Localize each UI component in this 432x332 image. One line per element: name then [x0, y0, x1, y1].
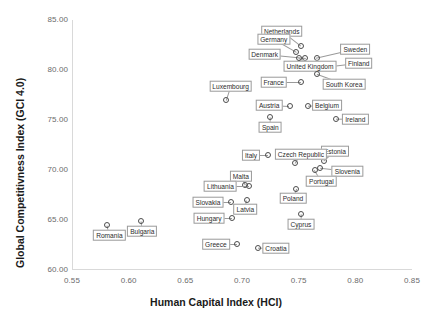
y-tick-label: 70.00 [30, 165, 68, 174]
data-point-marker[interactable] [229, 215, 235, 221]
x-tick-label: 0.60 [109, 276, 149, 285]
x-tick-label: 0.75 [279, 276, 319, 285]
point-label[interactable]: United Kingdom [284, 61, 337, 72]
point-label[interactable]: Romania [93, 230, 125, 241]
y-tick-label: 80.00 [30, 65, 68, 74]
data-point-marker[interactable] [305, 103, 311, 109]
data-point-marker[interactable] [246, 183, 252, 189]
x-tick-label: 0.80 [335, 276, 375, 285]
point-label[interactable]: Ireland [342, 114, 368, 125]
y-tick-label: 60.00 [30, 265, 68, 274]
point-label[interactable]: Slovenia [332, 166, 363, 177]
point-label[interactable]: Poland [280, 193, 307, 204]
point-label[interactable]: Greece [202, 239, 230, 250]
data-point-marker[interactable] [314, 71, 320, 77]
data-point-marker[interactable] [296, 55, 302, 61]
data-point-marker[interactable] [298, 79, 304, 85]
point-label[interactable]: Czech Republic [275, 149, 327, 160]
point-label[interactable]: Croatia [262, 243, 289, 254]
point-label[interactable]: France [260, 77, 287, 88]
point-label[interactable]: Malta [230, 171, 252, 182]
x-tick-label: 0.65 [165, 276, 205, 285]
point-label[interactable]: Sweden [340, 44, 370, 55]
x-tick-label: 0.55 [52, 276, 92, 285]
point-label[interactable]: Cyprus [287, 219, 314, 230]
point-label[interactable]: Austria [256, 100, 283, 111]
x-tick-label: 0.70 [222, 276, 262, 285]
y-axis-title: Global Competitivness Index (GCI 4.0) [14, 78, 26, 268]
point-label[interactable]: South Korea [323, 79, 366, 90]
point-label[interactable]: Latvia [234, 204, 258, 215]
point-label[interactable]: Portugal [306, 176, 337, 187]
y-tick-label: 75.00 [30, 115, 68, 124]
data-point-marker[interactable] [255, 245, 261, 251]
point-label[interactable]: Belgium [312, 100, 342, 111]
point-label[interactable]: Denmark [248, 49, 281, 60]
data-point-marker[interactable] [244, 197, 250, 203]
point-label[interactable]: Germany [257, 34, 290, 45]
point-label[interactable]: Hungary [194, 213, 225, 224]
point-label[interactable]: Lithuania [204, 181, 237, 192]
scatter-chart-figure: 60.0065.0070.0075.0080.0085.00 0.550.600… [0, 0, 432, 332]
y-tick-label: 65.00 [30, 215, 68, 224]
data-point-marker[interactable] [298, 211, 304, 217]
point-label[interactable]: Slovakia [193, 197, 224, 208]
point-label[interactable]: Bulgaria [127, 226, 157, 237]
x-tick-label: 0.85 [392, 276, 432, 285]
data-point-marker[interactable] [287, 103, 293, 109]
data-point-marker[interactable] [312, 167, 318, 173]
point-label[interactable]: Italy [242, 150, 260, 161]
data-point-marker[interactable] [298, 43, 304, 49]
x-axis-title: Human Capital Index (HCI) [0, 296, 432, 308]
point-label[interactable]: Luxembourg [209, 81, 252, 92]
y-tick-label: 85.00 [30, 15, 68, 24]
point-label[interactable]: Finland [345, 58, 373, 69]
point-label[interactable]: Spain [259, 122, 282, 133]
